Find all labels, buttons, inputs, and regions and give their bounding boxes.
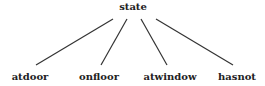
child-node-atwindow: atwindow — [143, 71, 196, 82]
tree-diagram: state atdoor onfloor atwindow hasnot — [0, 0, 265, 86]
edges — [36, 19, 233, 65]
child-node-onfloor: onfloor — [79, 71, 120, 82]
edge-state-atwindow — [141, 19, 167, 65]
edge-state-hasnot — [156, 19, 233, 65]
edge-state-atdoor — [36, 19, 113, 65]
root-node-state: state — [119, 1, 147, 12]
child-node-atdoor: atdoor — [12, 71, 49, 82]
edge-state-onfloor — [101, 19, 127, 65]
child-node-hasnot: hasnot — [218, 71, 256, 82]
